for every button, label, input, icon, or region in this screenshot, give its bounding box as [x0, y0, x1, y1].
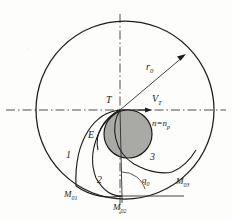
label-point-m01: M01: [64, 190, 77, 202]
label-center-point-T: T: [106, 95, 112, 105]
label-curve-3: 3: [150, 152, 155, 162]
label-angle-q0: q0: [142, 176, 149, 188]
shaded-central-body: [104, 110, 152, 158]
label-curve-2: 2: [97, 175, 102, 185]
label-plane-condition: n=np: [152, 119, 170, 131]
velocity-arrowhead: [145, 107, 152, 112]
label-ellipse-point-E: E: [88, 130, 94, 140]
label-curve-1: 1: [66, 150, 71, 160]
label-velocity-vector: VT: [152, 94, 162, 107]
label-radius: r0: [146, 62, 153, 75]
orbital-trajectory-figure: r0 T VT n=np E 1 2 3 q0 M01 M02 M03: [0, 0, 232, 221]
label-point-m03: M03: [176, 177, 189, 189]
figure-canvas: [0, 0, 232, 221]
label-point-m02: M02: [113, 203, 126, 215]
radius-arrowhead: [177, 54, 186, 61]
